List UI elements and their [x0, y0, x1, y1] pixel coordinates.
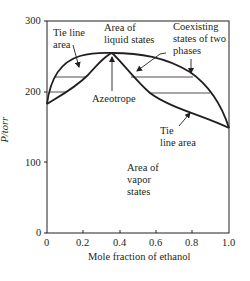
x-tick-0.2: 0.2	[76, 237, 89, 248]
y-tick-200: 200	[25, 86, 41, 97]
x-tick-1.0: 1.0	[222, 237, 235, 248]
vapor-area-label-2: vapor	[127, 174, 151, 186]
liquid-area-label-2: liquid states	[104, 34, 154, 46]
tie-line-area-right-label-1: Tie	[160, 125, 174, 137]
tie-lines	[49, 77, 210, 93]
x-axis-label: Mole fraction of ethanol	[88, 251, 190, 263]
coexisting-label-1: Coexisting	[173, 21, 219, 33]
y-tick-300: 300	[25, 15, 41, 26]
x-tick-0.6: 0.6	[149, 237, 162, 248]
y-tick-100: 100	[25, 157, 41, 168]
x-tick-0.4: 0.4	[113, 237, 126, 248]
y-tick-0: 0	[36, 227, 41, 238]
vapor-area-label-3: states	[127, 186, 150, 198]
azeotrope-label: Azeotrope	[92, 93, 136, 105]
tie-line-area-left-label-1: Tie line	[53, 27, 85, 39]
tie-line-area-right-label-2: line area	[160, 137, 196, 149]
tie-line-area-left-label-2: area	[53, 39, 70, 51]
vapor-area-label-1: Area of	[127, 162, 159, 174]
coexisting-label-2: states of two	[173, 33, 226, 45]
annotation-arrows	[73, 45, 191, 126]
arrow-tie-right	[179, 113, 190, 126]
y-axis-label: P/torr	[0, 117, 11, 143]
plot-frame	[47, 21, 229, 233]
coexisting-label-3: phases	[173, 45, 201, 57]
x-tick-0: 0	[44, 237, 49, 248]
vapor-curve	[47, 53, 229, 128]
liquid-area-label-1: Area of	[104, 22, 136, 34]
x-tick-0.8: 0.8	[185, 237, 198, 248]
